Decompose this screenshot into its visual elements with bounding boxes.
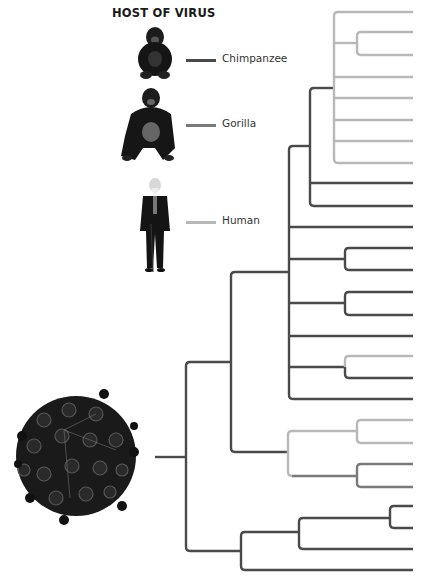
tree-node-g <box>390 506 413 528</box>
tree-node-f <box>299 518 413 549</box>
tree-node-pair-3 <box>345 367 413 378</box>
phylogenetic-tree <box>0 0 424 579</box>
tree-node-d <box>288 431 292 476</box>
tree-node-e <box>241 532 413 570</box>
tree-node-c <box>310 88 413 206</box>
tree-node-gorilla-pair <box>357 464 413 487</box>
tree-node-a <box>231 272 288 452</box>
tree-node-human-pair <box>357 420 413 443</box>
tree-node-pair-2 <box>345 292 413 315</box>
tree-node-root <box>186 362 190 551</box>
tree-node-pair-1 <box>345 248 413 270</box>
